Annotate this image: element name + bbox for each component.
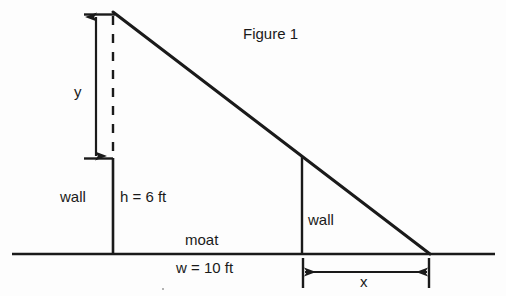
label-wall-left: wall	[60, 189, 86, 204]
label-moat: moat	[185, 232, 218, 247]
plank-hypotenuse	[113, 12, 430, 254]
label-wall-height: h = 6 ft	[120, 189, 166, 204]
label-wall-right: wall	[308, 212, 334, 227]
figure-canvas: Figure 1 y wall h = 6 ft moat w = 10 ft …	[0, 0, 506, 296]
label-y: y	[74, 84, 82, 99]
figure-title: Figure 1	[243, 26, 298, 41]
label-x: x	[360, 274, 368, 289]
scan-artifact-dot	[162, 288, 164, 290]
label-moat-width: w = 10 ft	[176, 260, 233, 275]
diagram-svg	[0, 0, 506, 296]
